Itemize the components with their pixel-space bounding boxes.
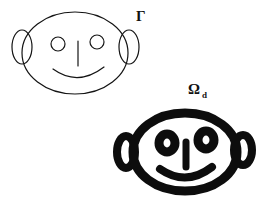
- label-omega-d: Ωd: [188, 82, 207, 100]
- figure-drawing: [0, 0, 268, 206]
- figure-canvas: Γ Ωd: [0, 0, 268, 206]
- thin-face-mouth: [53, 67, 104, 78]
- thick-face-eye-left: [159, 134, 175, 152]
- thin-outline-face: [12, 12, 139, 94]
- thin-face-ear-right: [119, 30, 139, 64]
- thick-face-eye-right: [198, 131, 214, 149]
- thin-face-head-outline: [22, 12, 128, 94]
- thick-dilated-face: [117, 113, 252, 191]
- label-omega-base: Ω: [188, 81, 200, 97]
- thin-face-eye-right: [90, 35, 104, 49]
- thin-face-eye-left: [51, 37, 65, 51]
- label-omega-subscript: d: [200, 90, 207, 100]
- label-gamma: Γ: [136, 9, 146, 24]
